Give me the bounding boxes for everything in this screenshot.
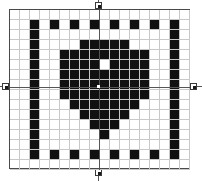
pattern-cell-empty [180, 40, 190, 50]
pattern-cell-empty [180, 140, 190, 150]
pattern-cell-empty [60, 20, 70, 30]
pattern-cell-filled [100, 110, 110, 120]
pattern-cell-empty [40, 130, 50, 140]
pattern-cell-empty [20, 150, 30, 160]
pattern-cell-filled [70, 60, 80, 70]
pattern-cell-filled [130, 80, 140, 90]
pattern-cell-empty [150, 60, 160, 70]
pattern-cell-filled [70, 70, 80, 80]
pattern-cell-empty [60, 120, 70, 130]
pattern-cell-filled [100, 120, 110, 130]
pattern-cell-filled [70, 150, 80, 160]
pattern-cell-empty [40, 150, 50, 160]
pattern-grid-frame [9, 9, 190, 169]
pattern-cell-filled [170, 60, 180, 70]
pattern-cell-empty [50, 70, 60, 80]
pattern-cell-empty [100, 30, 110, 40]
pattern-cell-filled [120, 80, 130, 90]
pattern-cell-empty [80, 120, 90, 130]
pattern-cell-empty [50, 90, 60, 100]
pattern-cell-empty [180, 50, 190, 60]
pattern-cell-empty [180, 160, 190, 170]
pattern-cell-filled [70, 50, 80, 60]
pattern-cell-empty [20, 110, 30, 120]
pattern-cell-empty [100, 150, 110, 160]
pattern-cell-empty [110, 10, 120, 20]
pattern-cell-empty [160, 50, 170, 60]
pattern-cell-empty [100, 20, 110, 30]
pattern-cell-empty [150, 130, 160, 140]
pattern-cell-empty [20, 30, 30, 40]
pattern-cell-empty [180, 80, 190, 90]
pattern-cell-filled [100, 80, 110, 90]
pattern-cell-empty [40, 70, 50, 80]
pattern-cell-empty [60, 40, 70, 50]
pattern-cell-empty [130, 120, 140, 130]
pattern-cell-empty [80, 150, 90, 160]
pattern-cell-filled [50, 20, 60, 30]
pattern-cell-empty [40, 80, 50, 90]
pattern-cell-empty [150, 100, 160, 110]
pattern-cell-empty [70, 160, 80, 170]
registration-mark-left-icon [2, 83, 9, 90]
pattern-cell-empty [140, 120, 150, 130]
pattern-cell-filled [30, 80, 40, 90]
pattern-cell-filled [120, 90, 130, 100]
pattern-cell-empty [140, 160, 150, 170]
pattern-cell-empty [170, 10, 180, 20]
pattern-cell-filled [30, 20, 40, 30]
pattern-cell-empty [50, 120, 60, 130]
pattern-cell-empty [20, 60, 30, 70]
pattern-cell-empty [70, 130, 80, 140]
pattern-cell-empty [50, 40, 60, 50]
pattern-cell-filled [30, 150, 40, 160]
pattern-cell-empty [20, 90, 30, 100]
pattern-cell-empty [100, 140, 110, 150]
pattern-cell-filled [130, 60, 140, 70]
pattern-cell-filled [70, 80, 80, 90]
pattern-cell-empty [20, 70, 30, 80]
pattern-cell-filled [80, 40, 90, 50]
pattern-cell-filled [170, 40, 180, 50]
pattern-cell-empty [70, 120, 80, 130]
pattern-cell-empty [20, 160, 30, 170]
pattern-cell-empty [160, 90, 170, 100]
heavy-gridline-horizontal [10, 87, 190, 88]
pattern-cell-filled [170, 120, 180, 130]
pattern-cell-empty [140, 40, 150, 50]
pattern-cell-filled [170, 70, 180, 80]
pattern-cell-empty [40, 10, 50, 20]
pattern-cell-empty [10, 120, 20, 130]
pattern-cell-empty [10, 110, 20, 120]
pattern-cell-empty [170, 160, 180, 170]
pattern-cell-empty [70, 140, 80, 150]
pattern-cell-empty [10, 10, 20, 20]
pattern-cell-filled [170, 150, 180, 160]
pattern-cell-filled [170, 50, 180, 60]
pattern-cell-empty [160, 100, 170, 110]
pattern-cell-empty [50, 130, 60, 140]
pattern-cell-filled [120, 50, 130, 60]
pattern-cell-empty [160, 40, 170, 50]
pattern-cell-empty [80, 160, 90, 170]
cross-stitch-chart [0, 0, 202, 181]
pattern-cell-filled [80, 70, 90, 80]
pattern-cell-empty [160, 20, 170, 30]
pattern-cell-empty [130, 10, 140, 20]
pattern-cell-empty [40, 110, 50, 120]
pattern-cell-filled [80, 80, 90, 90]
pattern-cell-empty [40, 60, 50, 70]
pattern-cell-empty [40, 40, 50, 50]
pattern-cell-empty [160, 30, 170, 40]
registration-mark-right-icon [190, 83, 197, 90]
pattern-cell-empty [20, 140, 30, 150]
pattern-cell-filled [110, 150, 120, 160]
pattern-cell-empty [130, 40, 140, 50]
pattern-cell-filled [30, 40, 40, 50]
pattern-cell-empty [10, 20, 20, 30]
pattern-cell-filled [30, 30, 40, 40]
pattern-cell-empty [50, 10, 60, 20]
pattern-cell-empty [20, 20, 30, 30]
registration-mark-bottom-icon [95, 169, 102, 176]
pattern-cell-empty [180, 120, 190, 130]
